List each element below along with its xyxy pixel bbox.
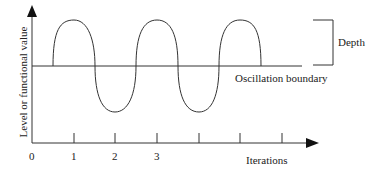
tick-label-1: 1: [71, 150, 77, 162]
tick-label-2: 2: [112, 150, 118, 162]
x-axis-ticks: [74, 133, 282, 143]
depth-bracket: [313, 20, 333, 65]
boundary-label: Oscillation boundary: [235, 72, 328, 84]
depth-label: Depth: [338, 36, 365, 48]
oscillation-diagram: Depth Oscillation boundary Iterations 0 …: [0, 0, 384, 170]
y-axis-arrow-icon: [27, 5, 37, 17]
x-axis-arrow-icon: [306, 138, 319, 148]
origin-label: 0: [29, 150, 35, 162]
y-axis-label: Level or functional value: [17, 26, 29, 137]
tick-label-3: 3: [154, 150, 160, 162]
x-axis-label: Iterations: [246, 154, 288, 166]
